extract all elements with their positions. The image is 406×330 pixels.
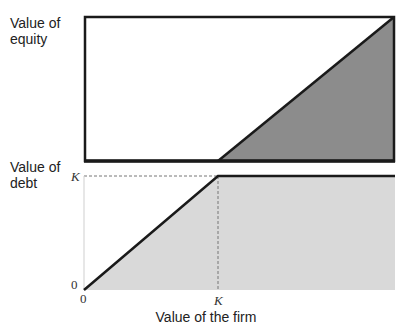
- x-tick-zero: 0: [80, 291, 87, 306]
- equity-ylabel-line1: Value of: [10, 15, 60, 31]
- equity-ylabel-line2: equity: [10, 31, 47, 47]
- y-tick-k: K: [70, 169, 81, 184]
- debt-ylabel-line1: Value of: [10, 159, 60, 175]
- debt-panel: [84, 176, 395, 290]
- debt-ylabel-line2: debt: [10, 175, 37, 191]
- debt-payoff-area: [84, 176, 395, 290]
- equity-panel: [84, 17, 395, 161]
- y-tick-zero: 0: [71, 277, 78, 292]
- x-axis-label: Value of the firm: [156, 309, 257, 325]
- payoff-diagram: Value of equity Value of debt K 0 0 K Va…: [0, 0, 406, 330]
- x-tick-k: K: [213, 293, 224, 308]
